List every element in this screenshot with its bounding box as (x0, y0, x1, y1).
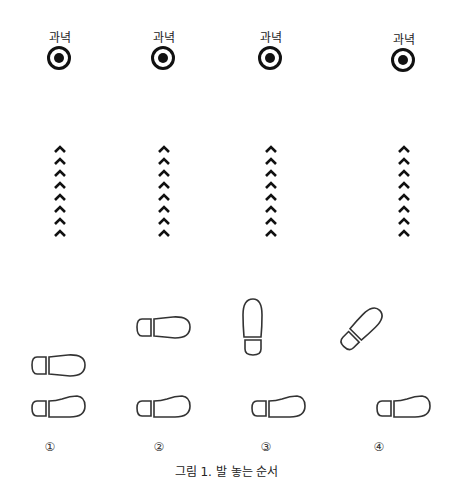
footprint-icon-3a (240, 297, 266, 357)
footprint-icon-4a (334, 300, 390, 356)
target-label-2: 과녁 (144, 28, 184, 45)
target-label-4: 과녁 (384, 30, 424, 47)
step-number-4: ④ (369, 440, 389, 454)
target-label-1: 과녁 (40, 28, 80, 45)
direction-chevrons-icon-3 (263, 144, 279, 244)
step-number-2: ② (149, 440, 169, 454)
figure-caption: 그림 1. 발 놓는 순서 (0, 462, 453, 479)
footprint-icon-3b (250, 395, 308, 421)
footprint-icon-2b (135, 395, 193, 421)
target-icon-3 (258, 46, 282, 70)
footprint-icon-4b (375, 395, 433, 421)
step-number-3: ③ (256, 440, 276, 454)
footprint-icon-1a (30, 353, 88, 379)
direction-chevrons-icon-4 (396, 144, 412, 244)
target-label-3: 과녁 (251, 28, 291, 45)
footprint-icon-1b (30, 395, 88, 421)
footprint-icon-2a (135, 315, 193, 341)
direction-chevrons-icon-2 (156, 144, 172, 244)
target-icon-2 (151, 46, 175, 70)
direction-chevrons-icon-1 (52, 144, 68, 244)
step-number-1: ① (40, 440, 60, 454)
target-icon-1 (47, 46, 71, 70)
target-icon-4 (391, 48, 415, 72)
